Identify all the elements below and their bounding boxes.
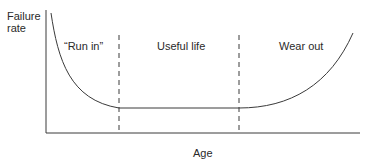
failure-rate-curve (51, 13, 353, 108)
region-label-useful-life: Useful life (157, 40, 205, 52)
x-axis-label: Age (193, 147, 213, 159)
y-axis-label: Failure rate (7, 10, 41, 34)
y-axis-label-line1: Failure (7, 10, 41, 22)
y-axis-label-line2: rate (7, 22, 41, 34)
region-label-wear-out: Wear out (279, 40, 323, 52)
bathtub-diagram (0, 0, 368, 168)
region-label-run-in: “Run in” (64, 40, 103, 52)
